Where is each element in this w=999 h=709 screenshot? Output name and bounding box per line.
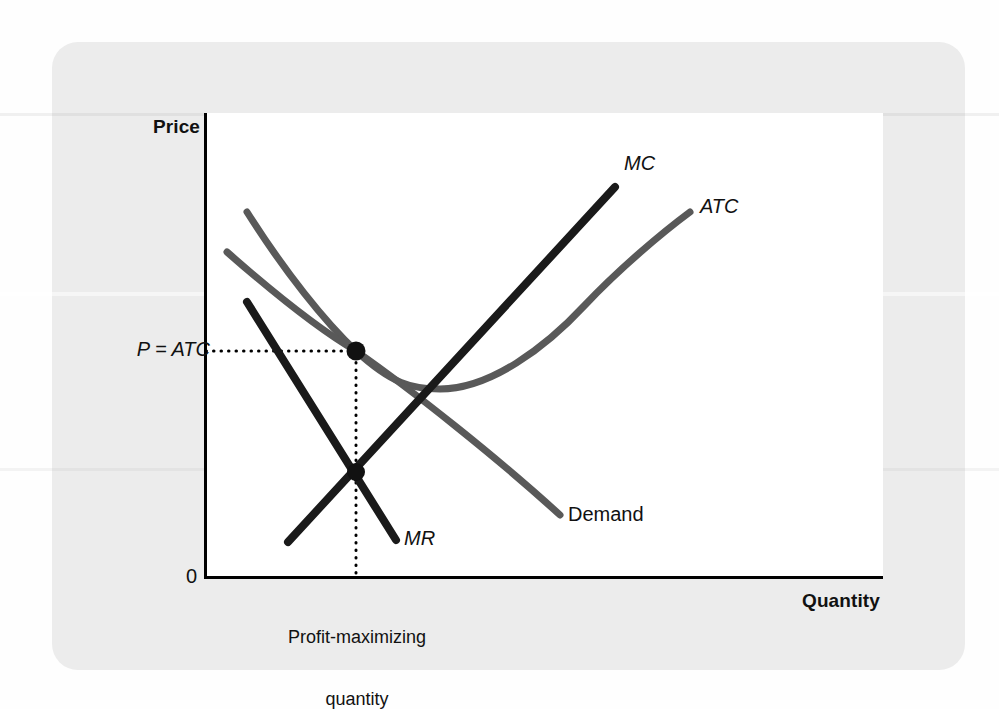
atc-curve xyxy=(247,212,690,389)
mc-curve-label: MC xyxy=(624,152,655,175)
price-level-label: P = ATC xyxy=(62,338,210,361)
y-axis-title: Price xyxy=(130,116,200,138)
atc-curve-label: ATC xyxy=(700,195,739,218)
x-axis-title: Quantity xyxy=(802,590,880,612)
origin-label: 0 xyxy=(186,565,197,588)
demand-curve-label: Demand xyxy=(568,503,644,526)
mr-curve-label: MR xyxy=(404,527,435,550)
tangency-point-dot xyxy=(347,342,366,361)
mr-equals-mc-point-dot xyxy=(347,463,365,481)
demand-curve xyxy=(227,252,560,515)
quantity-caption: Profit-maximizing quantity xyxy=(234,586,480,709)
quantity-caption-line-1: Profit-maximizing xyxy=(234,627,480,648)
figure-page: Price Quantity 0 P = ATC MC ATC MR Deman… xyxy=(0,0,999,709)
mc-curve xyxy=(288,187,615,542)
quantity-caption-line-2: quantity xyxy=(234,689,480,709)
